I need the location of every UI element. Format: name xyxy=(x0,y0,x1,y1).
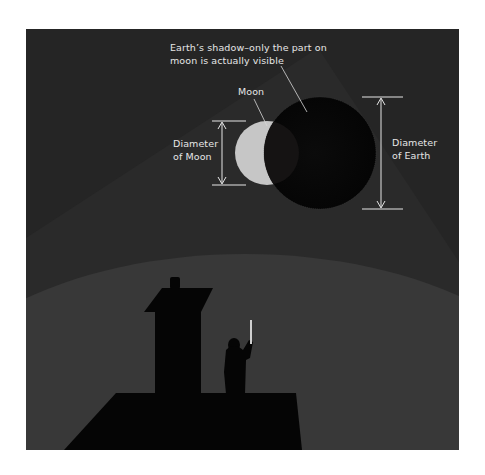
shadow-label: Earth’s shadow–only the part on moon is … xyxy=(170,41,327,67)
earth-diameter-label-line2: of Earth xyxy=(392,149,437,162)
earth-diameter-label: Diameter of Earth xyxy=(392,136,437,162)
moon-diameter-label-line1: Diameter xyxy=(173,137,218,150)
tower-knob xyxy=(170,277,180,289)
shadow-label-line1: Earth’s shadow–only the part on xyxy=(170,41,327,54)
moon-diameter-label: Diameter of Moon xyxy=(173,137,218,163)
diagram-panel: Earth’s shadow–only the part on moon is … xyxy=(26,29,459,450)
shadow-label-line2: moon is actually visible xyxy=(170,54,327,67)
tower-column xyxy=(155,308,201,398)
moon-label: Moon xyxy=(238,85,264,98)
earth-diameter-label-line1: Diameter xyxy=(392,136,437,149)
moon-diameter-label-line2: of Moon xyxy=(173,150,218,163)
measuring-stick xyxy=(250,320,252,344)
